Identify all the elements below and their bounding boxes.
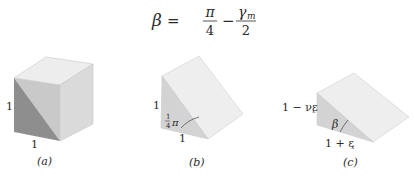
equation-lhs: β [151,10,162,30]
fraction2-denominator: 2 [242,23,250,38]
wedge-c-bottom-edge-label: 1 + ε [325,137,354,150]
caption-c: (c) [343,156,358,169]
wedge-c-angle-label: β [331,118,338,131]
wedge-c-bottom-edge-subscript: x [351,143,355,150]
wedge-b-bottom-edge-label: 1 [179,132,186,145]
figure: β = π 4 − γ m 2 1 1 (a) 1 1 4 π 1 (b) [0,0,414,176]
panel-b-wedge: 1 1 4 π 1 (b) [153,56,243,169]
wedge-b-angle-numerator: 1 [166,113,170,121]
cube-bottom-edge-label: 1 [31,138,38,151]
wedge-b-angle-denominator: 4 [166,122,171,130]
equation-equals: = [167,12,180,30]
fraction1-numerator: π [204,4,215,20]
panel-a-cube: 1 1 (a) [6,57,93,168]
wedge-b-angle-symbol: π [171,117,179,128]
panel-c-wedge: 1 − νε x β 1 + ε x (c) [282,73,409,169]
fraction1-denominator: 4 [206,23,214,38]
caption-b: (b) [189,156,205,169]
wedge-b-left-edge-label: 1 [153,99,160,112]
equation: β = π 4 − γ m 2 [151,4,256,38]
cube-left-edge-label: 1 [6,100,13,113]
caption-a: (a) [37,155,52,168]
fraction2-numerator-subscript: m [247,11,256,21]
equation-minus: − [222,12,235,30]
fraction2-numerator: γ [238,4,247,20]
